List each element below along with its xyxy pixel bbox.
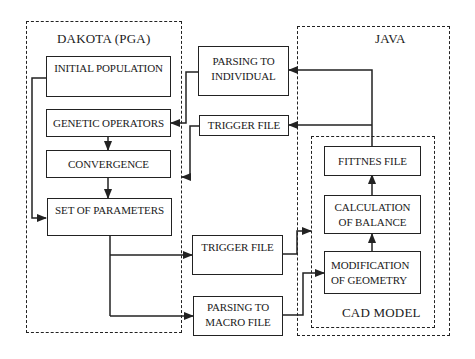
cad-model-label: CAD MODEL xyxy=(342,305,421,321)
parsing-to-individual-text: PARSING TO INDIVIDUAL xyxy=(211,54,275,95)
initial-population-text: INITIAL POPULATION xyxy=(54,61,163,96)
fittnes-file-text: FITTNES FILE xyxy=(338,154,407,169)
convergence-text: CONVERGENCE xyxy=(68,157,149,172)
modification-of-geometry-box: MODIFICATION OF GEOMETRY xyxy=(324,251,421,294)
trigger-file-bottom-text: TRIGGER FILE xyxy=(201,240,273,274)
edge-trigger-top-to-dakota xyxy=(182,126,199,177)
modification-of-geometry-text: MODIFICATION OF GEOMETRY xyxy=(331,258,409,288)
java-label: JAVA xyxy=(375,31,406,47)
calculation-of-balance-box: CALCULATION OF BALANCE xyxy=(324,195,421,234)
parsing-to-macro-file-box: PARSING TO MACRO FILE xyxy=(193,296,283,336)
trigger-file-top-box: TRIGGER FILE xyxy=(199,115,289,136)
initial-population-box: INITIAL POPULATION xyxy=(46,56,171,97)
set-of-parameters-box: SET OF PARAMETERS xyxy=(47,198,172,236)
parsing-to-macro-file-text: PARSING TO MACRO FILE xyxy=(205,300,270,335)
dakota-pga-label: DAKOTA (PGA) xyxy=(57,31,150,47)
calculation-of-balance-text: CALCULATION OF BALANCE xyxy=(335,200,411,230)
genetic-operators-box: GENETIC OPERATORS xyxy=(46,109,171,137)
convergence-box: CONVERGENCE xyxy=(46,150,171,178)
trigger-file-top-text: TRIGGER FILE xyxy=(208,118,280,133)
parsing-to-individual-box: PARSING TO INDIVIDUAL xyxy=(198,46,289,96)
fittnes-file-box: FITTNES FILE xyxy=(324,146,421,176)
trigger-file-bottom-box: TRIGGER FILE xyxy=(192,235,283,275)
genetic-operators-text: GENETIC OPERATORS xyxy=(53,116,164,131)
set-of-parameters-text: SET OF PARAMETERS xyxy=(55,203,164,235)
